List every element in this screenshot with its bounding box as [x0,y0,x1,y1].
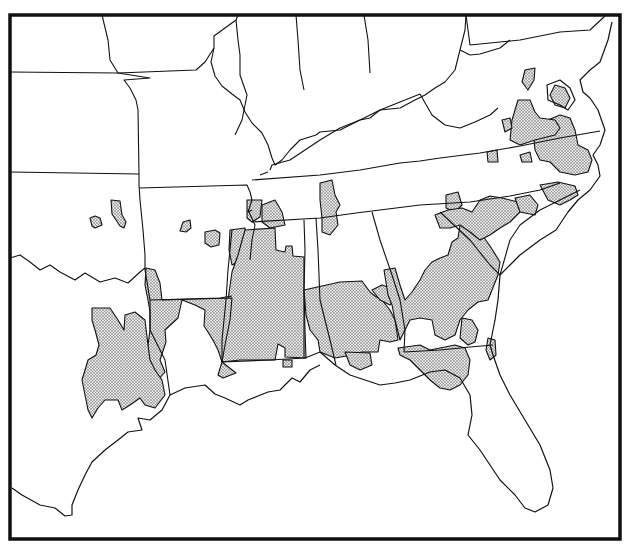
stippled-region [205,230,220,247]
southeast-us-map [0,0,631,547]
map-background [0,0,631,547]
stippled-region [283,360,292,367]
map-container [0,0,631,547]
stippled-region [90,216,102,228]
